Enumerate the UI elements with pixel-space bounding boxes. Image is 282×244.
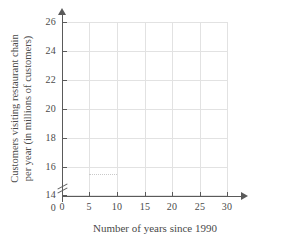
x-axis-tick-label: 0 [47,202,77,212]
x-axis-title: Number of years since 1990 [50,222,260,234]
y-axis-title: Customers visiting restaurant chain per … [9,9,34,209]
y-axis-tick [62,51,67,52]
x-axis-arrow-icon [241,192,248,200]
gridline-vertical [172,22,173,196]
y-axis-tick [62,109,67,110]
chart-figure: 26 24 22 20 18 16 14 0 0 5 10 15 20 25 3… [0,0,282,244]
gridline-vertical [200,22,201,196]
x-axis-tick [227,192,228,197]
y-axis-arrow-icon [58,8,66,15]
y-axis-tick [62,22,67,23]
x-axis-tick-label: 30 [212,202,242,212]
x-axis-tick [62,192,63,197]
gridline-vertical [117,22,118,196]
x-axis-tick [172,192,173,197]
x-axis-tick-label: 25 [185,202,215,212]
x-axis-tick-label: 15 [130,202,160,212]
x-axis-tick [145,192,146,197]
gridline-vertical [145,22,146,196]
x-axis-tick-label: 20 [157,202,187,212]
annotation-dotted-segment [89,174,117,175]
x-axis-tick-label: 5 [74,202,104,212]
x-axis-tick [89,192,90,197]
x-axis-tick [200,192,201,197]
y-axis-title-line-1: Customers visiting restaurant chain [9,9,22,209]
plot-area [62,22,228,196]
y-axis-line [62,14,63,202]
x-axis-tick [117,192,118,197]
y-axis-title-line-2: per year (in millions of customers) [21,9,34,209]
x-axis-tick-label: 10 [102,202,132,212]
y-axis-tick [62,138,67,139]
gridline-vertical [89,22,90,196]
y-axis-tick [62,80,67,81]
gridline-vertical [227,22,228,196]
y-axis-tick [62,167,67,168]
